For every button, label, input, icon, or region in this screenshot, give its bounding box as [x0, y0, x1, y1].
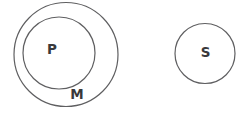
euler-diagram-canvas: P M S [0, 0, 248, 113]
set-label-m: M [70, 86, 83, 102]
set-label-s: S [201, 44, 211, 60]
euler-diagram: P M S [0, 0, 248, 113]
set-circle-p [23, 17, 95, 89]
set-label-p: P [47, 41, 57, 57]
